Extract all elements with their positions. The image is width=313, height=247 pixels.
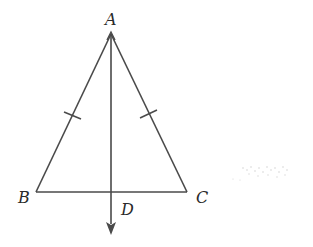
scan-smudge — [232, 166, 287, 180]
label-C: C — [196, 188, 208, 207]
label-D: D — [120, 200, 134, 219]
label-A: A — [103, 10, 117, 29]
label-B: B — [17, 188, 30, 207]
tick-mark-AB — [64, 112, 81, 119]
isosceles-triangle-diagram: A B C D — [0, 0, 313, 247]
side-AB — [36, 34, 111, 192]
